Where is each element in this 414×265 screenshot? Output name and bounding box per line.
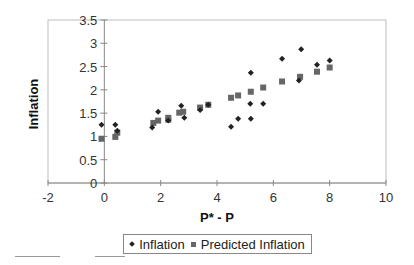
x-tick-label: 4 — [213, 190, 220, 205]
predicted-inflation-point — [180, 109, 186, 115]
x-tick-label: 0 — [101, 190, 108, 205]
legend-label: Inflation — [139, 237, 185, 252]
x-tick-label: 2 — [157, 190, 164, 205]
predicted-inflation-point — [279, 78, 285, 84]
predicted-inflation-point — [314, 69, 320, 75]
predicted-inflation-point — [155, 118, 161, 124]
predicted-inflation-point — [99, 136, 105, 142]
diamond-marker-icon — [129, 241, 135, 247]
divider-line — [95, 256, 125, 257]
predicted-inflation-point — [228, 95, 234, 101]
x-tick-label: 6 — [270, 190, 277, 205]
legend-item-predicted-inflation: Predicted Inflation — [191, 237, 305, 252]
y-axis-title: Inflation — [26, 79, 41, 130]
y-tick-label: 2 — [90, 83, 97, 98]
scatter-chart: -2024681000.511.522.533.5 Inflation P* -… — [0, 0, 414, 265]
plot-area — [48, 20, 386, 183]
divider-line — [15, 256, 60, 257]
x-axis-title: P* - P — [200, 210, 234, 225]
y-tick-label: 1 — [90, 129, 97, 144]
square-marker-icon — [191, 242, 196, 247]
predicted-inflation-point — [235, 92, 241, 98]
legend-label: Predicted Inflation — [201, 237, 305, 252]
x-tick-label: 8 — [326, 190, 333, 205]
x-tick-label: 10 — [379, 190, 393, 205]
legend-item-inflation: Inflation — [130, 237, 185, 252]
x-tick-label: -2 — [42, 190, 54, 205]
chart-legend: Inflation Predicted Inflation — [123, 234, 312, 254]
predicted-inflation-point — [260, 85, 266, 91]
y-tick-label: 2.5 — [79, 60, 97, 75]
y-tick-label: 1.5 — [79, 106, 97, 121]
y-tick-label: 0 — [90, 176, 97, 191]
y-tick-label: 3 — [90, 36, 97, 51]
y-tick-label: 0.5 — [79, 153, 97, 168]
predicted-inflation-point — [327, 65, 333, 71]
y-tick-label: 3.5 — [79, 13, 97, 28]
predicted-inflation-point — [248, 89, 254, 95]
